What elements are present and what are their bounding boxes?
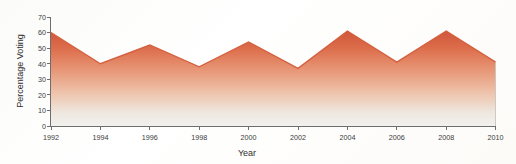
area-chart-plot: 70 60 50 40 30 20 10 0 <box>0 0 516 164</box>
x-tick-label-2010: 2010 <box>488 133 504 142</box>
x-tick-label-1994: 1994 <box>92 133 108 142</box>
y-tick-label-40: 40 <box>38 60 46 69</box>
area-fill <box>51 31 496 126</box>
x-tick-label-2008: 2008 <box>438 133 454 142</box>
x-tick-label-1996: 1996 <box>142 133 158 142</box>
data-series-group <box>51 31 496 126</box>
x-tick-label-1998: 1998 <box>191 133 207 142</box>
y-axis-tick-labels: 70 60 50 40 30 20 10 0 <box>38 13 46 131</box>
x-tick-label-2000: 2000 <box>241 133 257 142</box>
y-tick-label-70: 70 <box>38 13 46 22</box>
y-axis-title: Percentage Voting <box>15 34 25 108</box>
x-tick-label-2004: 2004 <box>339 133 355 142</box>
x-tick-label-1992: 1992 <box>43 133 59 142</box>
x-axis-tick-labels: 1992 1994 1996 1998 2000 2002 2004 2006 … <box>43 133 504 142</box>
chart-figure: 70 60 50 40 30 20 10 0 <box>0 0 516 164</box>
y-tick-label-30: 30 <box>38 75 46 84</box>
x-axis-tick-marks <box>51 126 496 130</box>
x-tick-label-2006: 2006 <box>389 133 405 142</box>
y-tick-label-50: 50 <box>38 44 46 53</box>
x-axis-title: Year <box>238 148 256 158</box>
y-tick-label-10: 10 <box>38 106 46 115</box>
y-tick-label-60: 60 <box>38 28 46 37</box>
y-tick-label-20: 20 <box>38 91 46 100</box>
y-tick-label-0: 0 <box>42 122 46 131</box>
x-tick-label-2002: 2002 <box>290 133 306 142</box>
